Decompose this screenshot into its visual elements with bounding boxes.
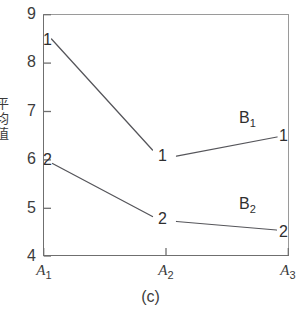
series-b2-point-label-a1: 2	[43, 152, 52, 168]
figure-caption: (c)	[0, 288, 301, 306]
y-tick-6: 6	[14, 151, 36, 167]
y-tick-5: 5	[14, 200, 36, 216]
x-tick-a1-sub: 1	[46, 269, 52, 281]
x-tick-a3-sub: 3	[290, 269, 296, 281]
y-tick-8: 8	[14, 54, 36, 70]
series-label-b1-sub: 1	[250, 117, 256, 129]
y-tick-7: 7	[14, 103, 36, 119]
x-tick-a2-base: A	[158, 262, 167, 278]
x-tick-a1-base: A	[36, 262, 45, 278]
series-label-b2: B2	[239, 196, 256, 217]
figure-container: 平 均 值 9 8 7 6 5 4	[0, 0, 301, 314]
series-label-b1-base: B	[239, 109, 250, 126]
x-tick-a3-base: A	[280, 262, 289, 278]
x-tick-a2: A2	[143, 262, 189, 284]
y-tick-9: 9	[14, 6, 36, 22]
series-label-b2-base: B	[239, 195, 250, 212]
series-b1-point-label-a3: 1	[279, 128, 288, 144]
series-b2-point-label-a3: 2	[279, 224, 288, 240]
x-tick-a1: A1	[21, 262, 67, 284]
x-tick-a3: A3	[265, 262, 301, 284]
x-tick-a2-sub: 2	[168, 269, 174, 281]
series-b1-point-label-a2: 1	[158, 148, 167, 164]
series-label-b2-sub: 2	[250, 203, 256, 215]
series-b2-point-label-a2: 2	[158, 211, 167, 227]
series-b1-point-label-a1: 1	[43, 32, 52, 48]
series-label-b1: B1	[239, 110, 256, 131]
